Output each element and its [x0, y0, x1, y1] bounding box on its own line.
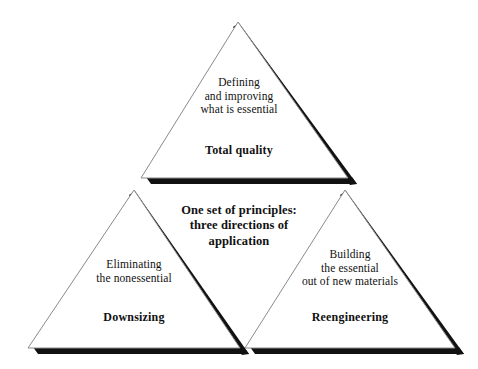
center-caption-line-2: three directions of [159, 218, 319, 233]
triangle-left-body-line-1: Eliminating [54, 258, 214, 272]
triangle-right-body-line-1: Building [270, 248, 430, 262]
triangle-right-body: Building the essential out of new materi… [270, 248, 430, 289]
triangle-top-body: Defining and improving what is essential [159, 76, 319, 117]
center-caption-line-1: One set of principles: [159, 203, 319, 218]
labels-layer: Defining and improving what is essential… [0, 0, 478, 369]
triangle-left-title: Downsizing [54, 310, 214, 324]
triangle-top-body-line-3: what is essential [159, 103, 319, 117]
triangle-top-body-line-2: and improving [159, 90, 319, 104]
triangle-right-body-line-2: the essential [270, 262, 430, 276]
triangle-top-title: Total quality [159, 143, 319, 157]
triangle-left-body: Eliminating the nonessential [54, 258, 214, 285]
triangle-top-body-line-1: Defining [159, 76, 319, 90]
triangle-right-title: Reengineering [270, 310, 430, 324]
triangle-diagram: Defining and improving what is essential… [0, 0, 478, 369]
triangle-left-body-line-2: the nonessential [54, 272, 214, 286]
triangle-right-body-line-3: out of new materials [270, 275, 430, 289]
center-caption-line-3: application [159, 234, 319, 249]
center-caption: One set of principles: three directions … [159, 203, 319, 249]
